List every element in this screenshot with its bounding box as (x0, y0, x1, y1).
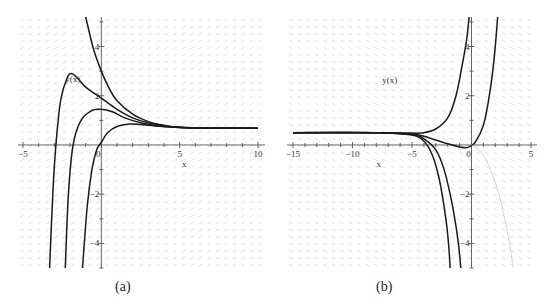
y-tick-label: −4 (90, 238, 100, 248)
caption-a: (a) (115, 279, 131, 295)
y-tick-label: 2 (465, 91, 470, 101)
panel-b: −15−10−505−4−224xy(x) (275, 0, 549, 275)
x-tick-label: −10 (345, 149, 360, 159)
x-axis-label: x (182, 159, 187, 169)
solution-curve (50, 74, 258, 268)
plot-a: −50510−4−224xy(x) (0, 0, 275, 275)
x-tick-label: −5 (18, 149, 28, 159)
solution-curve (472, 145, 514, 268)
panel-a: −50510−4−224xy(x) (0, 0, 275, 275)
curve-label: y(x) (65, 74, 80, 84)
caption-b: (b) (376, 279, 392, 295)
curve-label: y(x) (382, 75, 397, 85)
x-axis-label: x (376, 159, 381, 169)
y-tick-label: −2 (90, 189, 100, 199)
y-tick-label: −4 (460, 238, 470, 248)
y-tick-label: 4 (95, 42, 100, 52)
x-tick-label: 10 (254, 149, 264, 159)
solution-curve (83, 124, 259, 268)
x-tick-label: 0 (466, 149, 471, 159)
x-tick-label: −15 (286, 149, 301, 159)
x-tick-label: 5 (177, 149, 182, 159)
y-tick-label: −2 (460, 189, 470, 199)
plot-b: −15−10−505−4−224xy(x) (275, 0, 549, 275)
x-tick-label: 5 (529, 149, 534, 159)
x-tick-label: −5 (407, 149, 417, 159)
